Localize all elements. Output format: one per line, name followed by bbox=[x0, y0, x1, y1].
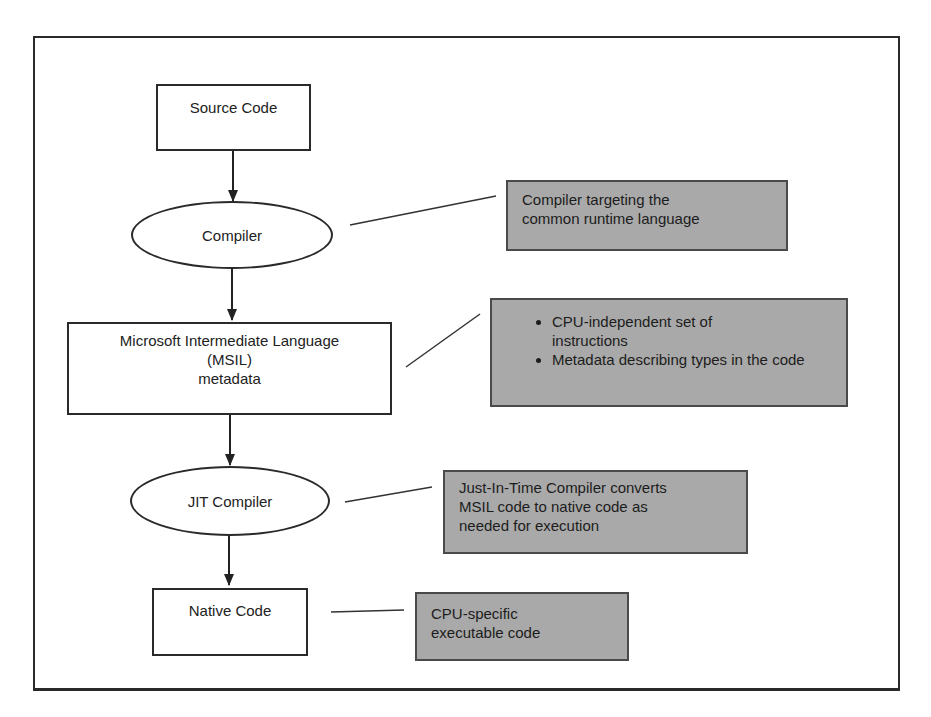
note-jit: Just-In-Time Compiler converts MSIL code… bbox=[443, 470, 748, 554]
note-bullet: CPU-independent set of instructions bbox=[552, 312, 836, 350]
callout-line-compiler bbox=[350, 196, 496, 225]
callout-line-native bbox=[331, 610, 404, 612]
note-line: Compiler targeting the bbox=[522, 190, 776, 209]
note-line: common runtime language bbox=[522, 209, 776, 228]
node-label: Compiler bbox=[202, 226, 262, 245]
note-compiler: Compiler targeting the common runtime la… bbox=[506, 180, 788, 251]
node-msil: Microsoft Intermediate Language (MSIL) m… bbox=[67, 322, 392, 415]
callout-line-jit bbox=[345, 487, 432, 502]
note-line: executable code bbox=[431, 623, 617, 642]
note-line: MSIL code to native code as bbox=[459, 497, 736, 516]
node-label-line: (MSIL) bbox=[69, 350, 390, 369]
note-bullet-list: CPU-independent set of instructions Meta… bbox=[506, 312, 836, 369]
note-line: Just-In-Time Compiler converts bbox=[459, 478, 736, 497]
node-label-line: Microsoft Intermediate Language bbox=[69, 331, 390, 350]
node-label: Source Code bbox=[190, 99, 278, 116]
callout-line-msil bbox=[406, 314, 480, 367]
node-jit-compiler: JIT Compiler bbox=[130, 466, 330, 536]
note-line: CPU-specific bbox=[431, 604, 617, 623]
node-source-code: Source Code bbox=[156, 84, 311, 151]
node-label: JIT Compiler bbox=[188, 492, 273, 511]
note-native: CPU-specific executable code bbox=[415, 592, 629, 661]
node-native-code: Native Code bbox=[152, 588, 308, 656]
node-label-line: metadata bbox=[69, 369, 390, 388]
note-bullet: Metadata describing types in the code bbox=[552, 350, 836, 369]
note-msil: CPU-independent set of instructions Meta… bbox=[490, 298, 848, 407]
node-label: Native Code bbox=[189, 602, 272, 619]
node-compiler: Compiler bbox=[131, 201, 333, 269]
note-line: needed for execution bbox=[459, 516, 736, 535]
